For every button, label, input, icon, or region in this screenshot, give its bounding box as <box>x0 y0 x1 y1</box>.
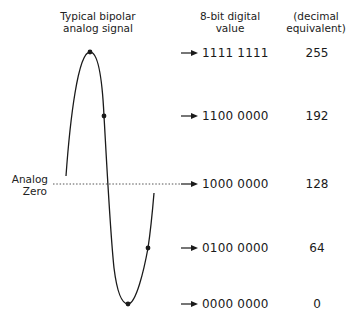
header-line: (decimal <box>280 10 352 22</box>
header-line: value <box>190 22 270 34</box>
decimal-value-0: 0 <box>297 297 337 311</box>
analog-zero-line1: Analog <box>0 173 48 185</box>
analog-signal-curve <box>66 52 154 304</box>
decimal-value-192: 192 <box>297 109 337 123</box>
arrow-icon <box>181 50 198 56</box>
decimal-value-128: 128 <box>297 177 337 191</box>
sample-point-64 <box>146 246 151 251</box>
arrow-icon <box>181 245 198 251</box>
binary-value-0: 0000 0000 <box>202 297 269 311</box>
binary-value-192: 1100 0000 <box>202 109 269 123</box>
binary-value-64: 0100 0000 <box>202 241 269 255</box>
signal-column-header: Typical bipolar analog signal <box>48 10 148 34</box>
arrow-icon <box>181 113 198 119</box>
sample-point-255 <box>88 50 93 55</box>
sample-point-0 <box>126 302 131 307</box>
arrow-icon <box>181 181 198 187</box>
analog-zero-label: Analog Zero <box>0 173 50 197</box>
header-line: 8-bit digital <box>190 10 270 22</box>
analog-zero-line2: Zero <box>0 185 47 197</box>
binary-value-128: 1000 0000 <box>202 177 269 191</box>
header-line: analog signal <box>48 22 148 34</box>
digital-column-header: 8-bit digital value <box>190 10 270 34</box>
header-line: Typical bipolar <box>48 10 148 22</box>
decimal-value-64: 64 <box>297 241 337 255</box>
decimal-column-header: (decimal equivalent) <box>280 10 352 34</box>
sample-point-192 <box>102 114 107 119</box>
binary-value-255: 1111 1111 <box>202 46 269 60</box>
arrow-icon <box>181 301 198 307</box>
decimal-value-255: 255 <box>297 46 337 60</box>
header-line: equivalent) <box>280 22 352 34</box>
